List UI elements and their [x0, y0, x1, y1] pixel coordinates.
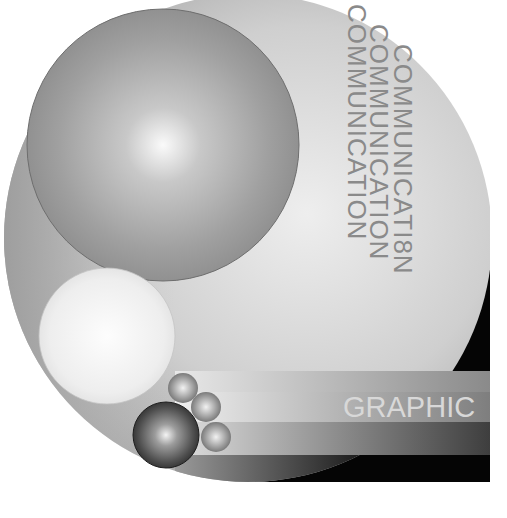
small-sphere-bottom	[201, 422, 231, 452]
vertical-title-column-3: COMMUNICATI8N	[390, 44, 416, 275]
graphic-label: GRAPHIC	[343, 392, 475, 422]
small-sphere-middle	[191, 392, 221, 422]
dark-sphere	[133, 402, 199, 468]
communication-graphic-artwork	[0, 0, 507, 518]
large-gray-sphere	[27, 9, 299, 281]
white-sphere	[39, 268, 175, 404]
small-sphere-top	[168, 373, 198, 403]
